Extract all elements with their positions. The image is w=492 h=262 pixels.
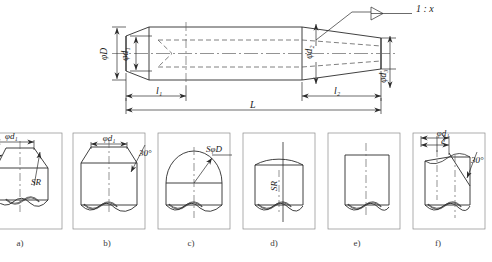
- label-f-angle: 30°: [470, 155, 484, 165]
- caption-d: d): [270, 238, 278, 248]
- label-a-SR: SR: [31, 177, 42, 187]
- drawing-sheet: φD φd₁ φd₂ φd₃ l₁ l₂ L 1 : x φd₁ SR φd₁ …: [0, 0, 492, 262]
- detail-view-f: [413, 133, 485, 229]
- label-l1: l₁: [156, 85, 162, 96]
- caption-c: c): [188, 238, 195, 248]
- label-phi-D: φD: [99, 48, 109, 60]
- label-a-phi-d1: φd₁: [5, 131, 18, 141]
- label-d-SR: SR: [269, 181, 279, 192]
- label-b-phi-d1: φd₁: [103, 133, 116, 143]
- label-phi-d2: φd₂: [304, 45, 314, 59]
- label-taper-ratio: 1 : x: [416, 3, 434, 14]
- detail-view-e: [328, 133, 400, 229]
- label-f-e: e: [441, 136, 445, 146]
- label-c-S-phi-D: SφD: [206, 144, 222, 154]
- dimension-l2: [302, 71, 381, 101]
- caption-b: b): [103, 238, 111, 248]
- caption-f: f): [435, 238, 441, 248]
- caption-a: a): [17, 238, 24, 248]
- label-phi-d3: φd₃: [378, 69, 388, 82]
- label-l2: l₂: [334, 85, 341, 96]
- detail-view-b: [73, 133, 145, 229]
- label-b-angle: 30°: [138, 148, 152, 158]
- technical-drawing-canvas: φD φd₁ φd₂ φd₃ l₁ l₂ L 1 : x φd₁ SR φd₁ …: [0, 0, 492, 262]
- caption-e: e): [354, 238, 361, 248]
- taper-callout-leader: [316, 7, 412, 40]
- detail-view-d: [243, 133, 315, 229]
- label-phi-d1-main: φd₁: [120, 47, 130, 60]
- label-L: L: [249, 99, 256, 110]
